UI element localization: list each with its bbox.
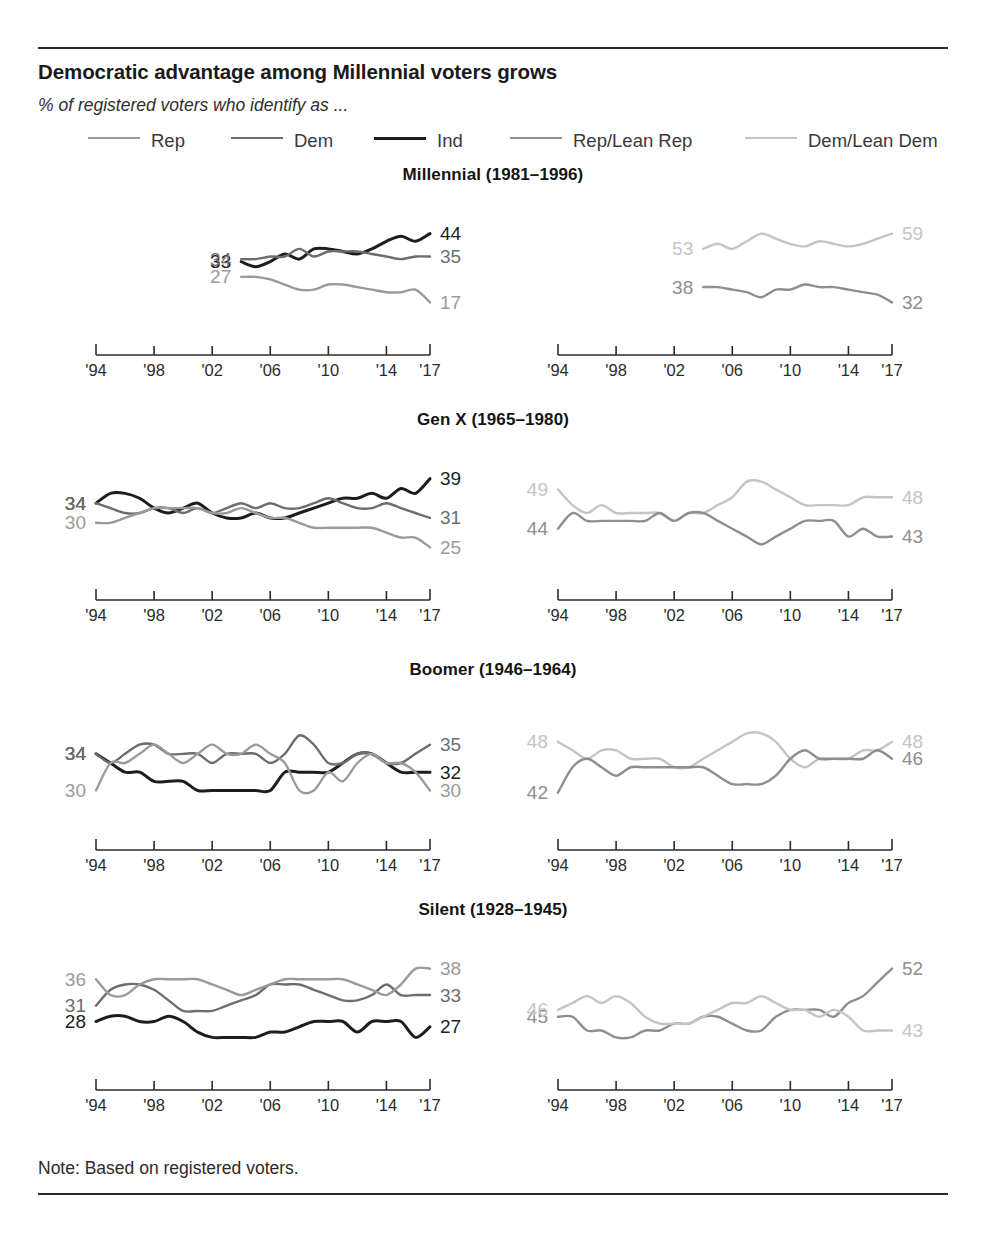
x-axis-tick-label: '94 bbox=[85, 606, 107, 624]
line-series-rep-lean-rep bbox=[703, 285, 892, 303]
panel-millennial-party-id: 334434352717'94'98'02'06'10'14'17 bbox=[38, 195, 486, 390]
generation-header-silent: Silent (1928–1945) bbox=[0, 900, 986, 920]
x-axis-tick-label: '17 bbox=[881, 361, 903, 379]
x-axis-tick-label: '98 bbox=[143, 1096, 165, 1114]
end-value-label: 48 bbox=[902, 487, 923, 508]
x-axis-tick-label: '17 bbox=[881, 856, 903, 874]
bottom-rule bbox=[38, 1193, 948, 1195]
x-axis-tick-label: '17 bbox=[419, 856, 441, 874]
x-axis-tick-label: '02 bbox=[201, 606, 223, 624]
end-value-label: 44 bbox=[440, 223, 462, 244]
start-value-label: 38 bbox=[672, 277, 693, 298]
start-value-label: 49 bbox=[527, 479, 548, 500]
x-axis-tick-label: '06 bbox=[260, 361, 282, 379]
x-axis-tick-label: '17 bbox=[419, 1096, 441, 1114]
line-series-ind bbox=[96, 479, 430, 519]
x-axis-tick-label: '98 bbox=[605, 856, 627, 874]
end-value-label: 17 bbox=[440, 292, 461, 313]
page-title: Democratic advantage among Millennial vo… bbox=[38, 60, 557, 84]
x-axis-tick-label: '02 bbox=[663, 1096, 685, 1114]
end-value-label: 35 bbox=[440, 734, 461, 755]
start-value-label: 30 bbox=[65, 780, 86, 801]
legend-line-icon bbox=[231, 137, 283, 139]
start-value-label: 34 bbox=[65, 493, 87, 514]
x-axis-tick-label: '02 bbox=[201, 856, 223, 874]
x-axis-tick-label: '02 bbox=[663, 361, 685, 379]
end-value-label: 46 bbox=[902, 748, 923, 769]
x-axis-tick-label: '17 bbox=[419, 606, 441, 624]
x-axis-tick-label: '14 bbox=[838, 1096, 860, 1114]
end-value-label: 27 bbox=[440, 1016, 461, 1037]
line-series-rep bbox=[96, 968, 430, 997]
start-value-label: 42 bbox=[527, 782, 548, 803]
line-series-rep-lean-rep bbox=[558, 969, 892, 1039]
x-axis-tick-label: '06 bbox=[722, 606, 744, 624]
x-axis-tick-label: '14 bbox=[838, 361, 860, 379]
legend-label: Dem/Lean Dem bbox=[808, 130, 938, 152]
x-axis-tick-label: '10 bbox=[780, 856, 802, 874]
start-value-label: 31 bbox=[65, 995, 86, 1016]
panel-boomer-lean: 48484246'94'98'02'06'10'14'17 bbox=[500, 690, 948, 885]
x-axis-tick-label: '14 bbox=[376, 1096, 398, 1114]
line-series-rep bbox=[96, 745, 430, 793]
x-axis-tick-label: '10 bbox=[780, 361, 802, 379]
start-value-label: 46 bbox=[527, 999, 548, 1020]
legend-item-rep: Rep bbox=[88, 130, 185, 156]
x-axis-tick-label: '06 bbox=[260, 606, 282, 624]
start-value-label: 44 bbox=[527, 518, 549, 539]
panel-gen-party-id: 343934313025'94'98'02'06'10'14'17 bbox=[38, 440, 486, 635]
x-axis-tick-label: '98 bbox=[143, 856, 165, 874]
legend-label: Dem bbox=[294, 130, 333, 152]
x-axis-tick-label: '06 bbox=[722, 1096, 744, 1114]
x-axis-tick-label: '06 bbox=[260, 1096, 282, 1114]
x-axis-tick-label: '94 bbox=[547, 606, 569, 624]
legend-item-ind: Ind bbox=[374, 130, 463, 156]
x-axis-tick-label: '06 bbox=[722, 856, 744, 874]
x-axis-tick-label: '02 bbox=[201, 361, 223, 379]
x-axis-tick-label: '17 bbox=[881, 606, 903, 624]
end-value-label: 52 bbox=[902, 958, 923, 979]
x-axis-tick-label: '06 bbox=[722, 361, 744, 379]
line-series-dem-lean-dem bbox=[558, 480, 892, 521]
x-axis-tick-label: '10 bbox=[780, 1096, 802, 1114]
line-series-rep-lean-rep bbox=[558, 512, 892, 544]
x-axis-tick-label: '14 bbox=[376, 856, 398, 874]
line-series-rep bbox=[241, 277, 430, 303]
end-value-label: 43 bbox=[902, 526, 923, 547]
panel-silent-lean: 45524643'94'98'02'06'10'14'17 bbox=[500, 930, 948, 1125]
legend-label: Rep bbox=[151, 130, 185, 152]
x-axis-tick-label: '98 bbox=[605, 606, 627, 624]
line-series-dem bbox=[241, 249, 430, 259]
end-value-label: 31 bbox=[440, 507, 461, 528]
generation-header-boomer: Boomer (1946–1964) bbox=[0, 660, 986, 680]
x-axis-tick-label: '02 bbox=[663, 856, 685, 874]
x-axis-tick-label: '14 bbox=[838, 856, 860, 874]
x-axis-tick-label: '14 bbox=[838, 606, 860, 624]
x-axis-tick-label: '94 bbox=[547, 1096, 569, 1114]
chart-subtitle: % of registered voters who identify as .… bbox=[38, 95, 348, 116]
x-axis-tick-label: '10 bbox=[318, 1096, 340, 1114]
x-axis-tick-label: '98 bbox=[605, 361, 627, 379]
top-rule bbox=[38, 47, 948, 49]
chart-page: Democratic advantage among Millennial vo… bbox=[0, 0, 986, 1241]
legend-item-dem-lean-dem: Dem/Lean Dem bbox=[745, 130, 938, 156]
panel-boomer-party-id: 343234353030'94'98'02'06'10'14'17 bbox=[38, 690, 486, 885]
legend-item-dem: Dem bbox=[231, 130, 333, 156]
x-axis-tick-label: '94 bbox=[547, 856, 569, 874]
legend-line-icon bbox=[745, 137, 797, 139]
end-value-label: 39 bbox=[440, 468, 461, 489]
x-axis-tick-label: '10 bbox=[318, 856, 340, 874]
x-axis-tick-label: '17 bbox=[419, 361, 441, 379]
panel-silent-party-id: 282731333638'94'98'02'06'10'14'17 bbox=[38, 930, 486, 1125]
x-axis-tick-label: '98 bbox=[143, 606, 165, 624]
start-value-label: 30 bbox=[65, 512, 86, 533]
panel-millennial-lean: 53593832'94'98'02'06'10'14'17 bbox=[500, 195, 948, 390]
end-value-label: 43 bbox=[902, 1020, 923, 1041]
start-value-label: 53 bbox=[672, 238, 693, 259]
end-value-label: 33 bbox=[440, 985, 461, 1006]
x-axis-tick-label: '14 bbox=[376, 606, 398, 624]
x-axis-tick-label: '02 bbox=[663, 606, 685, 624]
line-series-dem-lean-dem bbox=[558, 732, 892, 768]
end-value-label: 35 bbox=[440, 246, 461, 267]
line-series-ind bbox=[96, 1016, 430, 1038]
